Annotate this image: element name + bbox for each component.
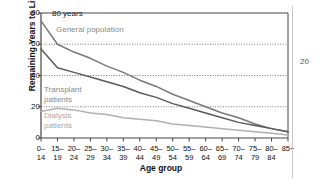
series-label-dialysis-line2: patients bbox=[44, 121, 72, 130]
page-number: 20 bbox=[300, 57, 309, 66]
x-axis-tick-label: 85+ bbox=[273, 144, 303, 153]
series-label-dialysis-patients: Dialysis patients bbox=[44, 111, 72, 130]
page-margin-rule bbox=[292, 6, 293, 178]
series-label-transplant-line2: patients bbox=[44, 95, 72, 104]
chart-figure: Remaining Years to Live 80 years 0204060… bbox=[0, 0, 320, 181]
series-label-dialysis-line1: Dialysis bbox=[44, 111, 72, 120]
x-tick-line2: 84 bbox=[257, 153, 287, 162]
series-label-transplant-line1: Transplant bbox=[44, 85, 82, 94]
data-series-lines bbox=[41, 21, 288, 135]
x-axis-title: Age group bbox=[36, 163, 286, 173]
series-line-general-population bbox=[41, 21, 288, 132]
series-label-transplant-patients: Transplant patients bbox=[44, 85, 82, 104]
series-label-general-population: General population bbox=[56, 25, 124, 35]
